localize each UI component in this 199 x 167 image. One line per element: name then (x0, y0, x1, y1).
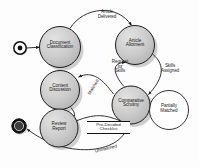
edge-start-to-document-classification (26, 47, 39, 48)
state-content-discussion[interactable] (41, 71, 80, 110)
edge-label-pre-decided-checklist: Pre-Decided Checklist (87, 121, 130, 134)
state-partially-matched[interactable] (150, 91, 189, 130)
state-review-report[interactable] (40, 109, 78, 147)
state-diagram: Document Classification Article Allotmen… (0, 0, 199, 167)
final-state-dot (14, 121, 23, 130)
state-document-classification[interactable] (40, 27, 81, 68)
start-state-dot (18, 46, 23, 51)
edge-article-delivered (70, 10, 132, 28)
edge-request-for-skills (115, 62, 125, 86)
start-state-marker[interactable] (14, 42, 28, 56)
edge-matched (79, 75, 114, 94)
state-article-allotment[interactable] (116, 26, 155, 65)
final-state-marker[interactable] (12, 119, 28, 135)
diagram-canvas (0, 0, 199, 167)
state-comparative-scrutiny[interactable] (112, 86, 150, 124)
